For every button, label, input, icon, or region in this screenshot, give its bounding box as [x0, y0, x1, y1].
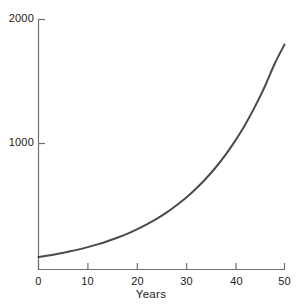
plot-area — [0, 0, 302, 308]
x-tick-label-10: 10 — [77, 275, 98, 287]
chart-container: 2000 1000 0 10 20 30 40 50 Years — [0, 0, 302, 308]
x-tick-label-30: 30 — [176, 275, 197, 287]
x-axis-label: Years — [0, 288, 302, 300]
data-series-line — [39, 45, 285, 258]
x-tick-label-20: 20 — [127, 275, 148, 287]
y-tick-label-2000: 2000 — [2, 12, 34, 24]
x-tick-label-40: 40 — [226, 275, 247, 287]
y-tick-label-1000: 1000 — [2, 136, 34, 148]
x-tick-label-0: 0 — [28, 275, 49, 287]
x-tick-label-50: 50 — [274, 275, 295, 287]
